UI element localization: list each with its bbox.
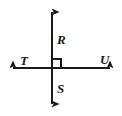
vertex-label-s: S: [57, 81, 64, 96]
vertex-label-r: R: [56, 32, 66, 47]
right-angle-marker-icon: [52, 59, 61, 68]
vertex-label-u: U: [100, 52, 110, 67]
geometry-figure-canvas: R T U S: [0, 0, 122, 116]
perpendicular-lines-svg: R T U S: [0, 0, 122, 116]
vertex-label-t: T: [20, 53, 29, 68]
